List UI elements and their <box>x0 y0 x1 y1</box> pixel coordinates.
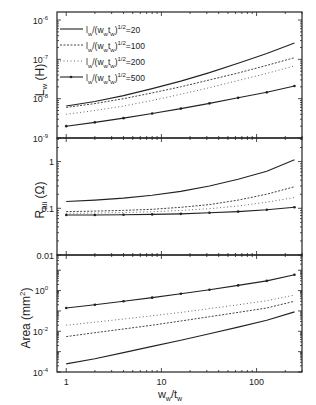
legend-label: lw/(wwtw)1/2=200 <box>86 56 145 69</box>
y-tick-label: 10-2 <box>33 326 49 337</box>
svg-text:ww/tw: ww/tw <box>157 388 183 402</box>
series-marker <box>94 214 97 217</box>
series-marker <box>151 296 154 299</box>
series-marker <box>180 107 183 110</box>
panel-frame <box>57 138 302 255</box>
panel-0: 10-610-710-810-9 <box>33 12 302 144</box>
y-tick-label: 0.01 <box>36 251 54 261</box>
series-line-1 <box>66 301 294 336</box>
y-label-inductance: Lw (H) <box>33 64 49 96</box>
series-marker <box>122 213 125 216</box>
x-tick-label: 100 <box>249 377 264 387</box>
series-marker <box>208 102 211 105</box>
series-marker <box>94 304 97 307</box>
y-tick-label: 10-6 <box>33 15 49 26</box>
series-marker <box>151 213 154 216</box>
svg-text:Lw (H): Lw (H) <box>33 64 49 96</box>
svg-text:Rali (Ω): Rali (Ω) <box>33 182 49 219</box>
series-line-3 <box>66 86 294 126</box>
legend-label: lw/(wwtw)1/2=20 <box>86 24 141 37</box>
series-line-1 <box>66 187 294 212</box>
series-marker <box>265 91 268 94</box>
series-marker <box>151 112 154 115</box>
x-axis: 110100 <box>64 377 264 387</box>
y-label-area: Area (mm2) <box>18 287 33 348</box>
series-marker <box>180 213 183 216</box>
svg-text:Area (mm2): Area (mm2) <box>18 287 33 348</box>
series-marker <box>237 210 240 213</box>
y-tick-label: 10-4 <box>33 367 49 378</box>
y-label-resistance: Rali (Ω) <box>33 182 49 219</box>
panels: 10-610-710-810-910.10.0110010-210-4 <box>33 12 302 378</box>
series-line-0 <box>66 312 294 364</box>
legend-label: lw/(wwtw)1/2=500 <box>86 72 145 85</box>
y-tick-label: 1 <box>49 157 54 167</box>
series-marker <box>122 117 125 120</box>
series-marker <box>293 85 296 88</box>
series-marker <box>65 125 68 128</box>
series-marker <box>265 208 268 211</box>
series-marker <box>293 206 296 209</box>
series-marker <box>94 121 97 124</box>
series-marker <box>237 97 240 100</box>
series-marker <box>208 212 211 215</box>
series-marker <box>180 292 183 295</box>
panel-2: 10010-210-4 <box>33 255 302 378</box>
series-marker <box>65 307 68 310</box>
series-line-2 <box>66 295 294 325</box>
x-tick-label: 10 <box>156 377 166 387</box>
series-marker <box>293 273 296 276</box>
series-marker <box>265 280 268 283</box>
series-marker <box>208 288 211 291</box>
series-line-0 <box>66 160 294 202</box>
legend-label: lw/(wwtw)1/2=100 <box>86 40 145 53</box>
x-axis-label: ww/tw <box>157 388 183 402</box>
series-marker <box>237 284 240 287</box>
chart-figure: 10-610-710-810-910.10.0110010-210-4 lw/(… <box>0 0 316 405</box>
series-marker <box>122 300 125 303</box>
y-tick-label: 10-7 <box>33 54 49 65</box>
y-tick-label: 10-9 <box>33 133 49 144</box>
x-tick-label: 1 <box>64 377 69 387</box>
panel-1: 10.10.01 <box>36 138 302 261</box>
series-line-3 <box>66 275 294 308</box>
panel-frame <box>57 255 302 372</box>
series-marker <box>65 214 68 217</box>
legend: lw/(wwtw)1/2=20lw/(wwtw)1/2=100lw/(wwtw)… <box>60 24 145 85</box>
y-tick-label: 100 <box>35 285 49 296</box>
